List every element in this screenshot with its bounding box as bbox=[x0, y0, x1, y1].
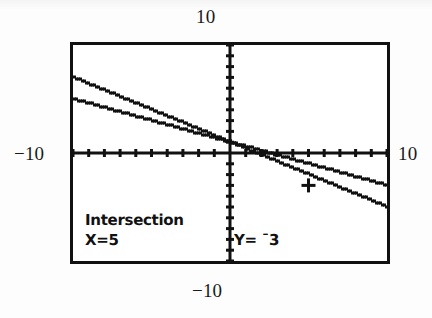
axis-label-bottom: −10 bbox=[192, 280, 222, 302]
calculator-screen: Intersection X=5 Y= ¯3 bbox=[70, 42, 390, 264]
axis-label-left: −10 bbox=[14, 143, 44, 165]
intersection-readout-x-value: X=5 bbox=[85, 233, 119, 248]
intersection-readout-y-value: Y= ¯3 bbox=[234, 233, 279, 248]
axis-label-right: 10 bbox=[398, 143, 417, 165]
scan-artifact-band bbox=[0, 0, 432, 10]
axis-label-top: 10 bbox=[196, 6, 215, 28]
intersection-readout-title: Intersection bbox=[85, 213, 184, 228]
intersection-cursor-icon bbox=[302, 178, 316, 192]
